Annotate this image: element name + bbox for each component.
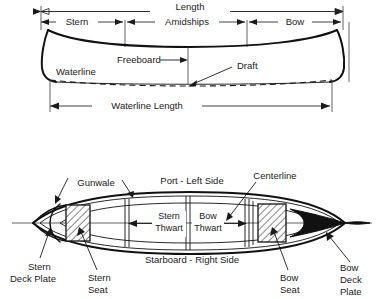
canoe-terminology-diagram: Length Stern Amidships bbox=[0, 0, 383, 299]
wl-arrow-left bbox=[50, 103, 59, 110]
stern-thwart-label-line2: Thwart bbox=[155, 223, 183, 233]
amidships-arrow-right bbox=[237, 19, 245, 25]
stern-deck-plate-annotation: Stern Deck Plate bbox=[10, 228, 56, 284]
stern-deck-plate-label-line1: Stern bbox=[28, 261, 51, 272]
plan-view: Stern Thwart Bow Thwart Gunwale Port - L bbox=[10, 170, 372, 297]
bow-deck-plate-annotation: Bow Deck Plate bbox=[326, 232, 362, 297]
stern-thwart-annotation: Stern Thwart bbox=[128, 211, 186, 237]
stern-seat bbox=[66, 205, 90, 241]
draft-label: Draft bbox=[237, 60, 258, 71]
stern-deck-plate-leader bbox=[40, 232, 49, 258]
amidships-dimension: Amidships bbox=[127, 16, 245, 28]
bow-seat-block bbox=[258, 204, 286, 242]
port-left-side-label: Port - Left Side bbox=[160, 175, 223, 186]
diagram-canvas: Length Stern Amidships bbox=[0, 0, 383, 299]
draft-arrowhead bbox=[188, 80, 197, 87]
profile-view: Length Stern Amidships bbox=[41, 1, 349, 112]
centerline-leader bbox=[229, 182, 256, 217]
stern-seat-label-line1: Stern bbox=[88, 272, 111, 283]
freeboard-annotation: Freeboard bbox=[117, 54, 188, 65]
bow-thwart-label-line2: Thwart bbox=[194, 223, 222, 233]
bow-tip-point bbox=[345, 222, 370, 224]
bow-thwart-annotation: Bow Thwart bbox=[192, 211, 247, 237]
bow-deck-plate-leader bbox=[329, 236, 350, 262]
bow-seat bbox=[258, 204, 286, 242]
hull-stern-curve bbox=[42, 30, 56, 82]
starboard-right-side-label: Starboard - Right Side bbox=[145, 254, 239, 265]
bow-dimension: Bow bbox=[249, 16, 341, 28]
bow-thwart-arrowhead bbox=[238, 220, 247, 227]
bow-deck-plate-label-line2: Deck bbox=[340, 274, 362, 285]
bow-deck-plate-label-line1: Bow bbox=[340, 262, 359, 273]
freeboard-arrowhead bbox=[180, 57, 188, 63]
hull-sheer-line bbox=[48, 30, 337, 47]
stern-thwart-label-line1: Stern bbox=[158, 211, 180, 221]
waterline-label: Waterline bbox=[56, 66, 96, 77]
length-dimension: Length bbox=[41, 1, 343, 15]
amidships-arrow-left bbox=[127, 19, 135, 25]
centerline-label: Centerline bbox=[253, 170, 296, 181]
stern-dimension: Stern bbox=[41, 16, 123, 28]
bow-deck-plate-label-line3: Plate bbox=[340, 286, 362, 297]
waterline-length-label: Waterline Length bbox=[111, 100, 182, 111]
length-label: Length bbox=[175, 1, 204, 12]
gunwale-label: Gunwale bbox=[77, 177, 115, 188]
waterline-length-dimension: Waterline Length bbox=[50, 99, 330, 112]
gunwale-leader-left bbox=[57, 178, 68, 200]
bow-thwart-label-line1: Bow bbox=[199, 211, 217, 221]
freeboard-label: Freeboard bbox=[117, 54, 161, 65]
stern-label: Stern bbox=[66, 16, 89, 27]
hull-bow-curve bbox=[330, 30, 344, 82]
stern-arrow-left bbox=[41, 19, 49, 25]
stern-deck-plate-label-line2: Deck Plate bbox=[10, 273, 56, 284]
bow-seat-label-line2: Seat bbox=[280, 284, 300, 295]
amidships-label: Amidships bbox=[165, 16, 209, 27]
draft-leader bbox=[193, 67, 232, 84]
bow-label: Bow bbox=[286, 16, 305, 27]
bow-arrow-left bbox=[249, 19, 257, 25]
stern-seat-block bbox=[66, 205, 90, 241]
gunwale-arrowhead-left bbox=[55, 195, 61, 204]
wl-arrow-right bbox=[321, 103, 330, 110]
bow-seat-label-line1: Bow bbox=[280, 272, 299, 283]
draft-annotation: Draft bbox=[188, 60, 258, 87]
gunwale-annotation: Gunwale bbox=[55, 177, 134, 204]
gunwale-leader-right bbox=[122, 180, 131, 194]
stern-seat-label-line2: Seat bbox=[88, 284, 108, 295]
stern-arrow-right bbox=[115, 19, 123, 25]
bow-arrow-right bbox=[333, 19, 341, 25]
